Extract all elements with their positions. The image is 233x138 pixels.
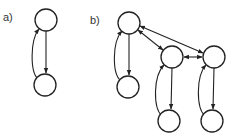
- node-b-top-child: [117, 76, 139, 98]
- panel-b: b): [90, 12, 225, 132]
- node-b-top: [118, 12, 140, 34]
- panel-a: a): [3, 9, 57, 96]
- edge-b-top-mid: [138, 30, 163, 50]
- edge-b-child-to-mid: [155, 65, 164, 116]
- node-a-top: [35, 9, 57, 31]
- node-a-bottom: [34, 74, 56, 96]
- panel-b-label: b): [90, 14, 100, 26]
- node-b-right-child: [201, 110, 223, 132]
- node-b-mid: [161, 46, 183, 68]
- edge-a-bottom-to-top: [32, 29, 39, 79]
- edge-b-child-to-top: [114, 31, 122, 81]
- edge-b-mid-to-child: [171, 68, 172, 109]
- panel-a-label: a): [3, 11, 13, 23]
- diagram-canvas: a) b): [0, 0, 233, 138]
- node-b-right: [203, 46, 225, 68]
- edge-b-right-to-child: [213, 68, 214, 109]
- node-b-mid-child: [158, 110, 180, 132]
- edge-b-child-to-right: [198, 65, 206, 116]
